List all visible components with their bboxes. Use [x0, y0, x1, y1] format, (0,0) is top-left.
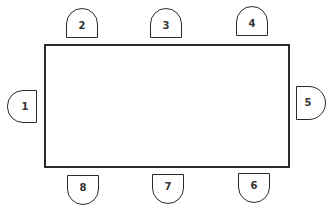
- chair-6-label: 6: [251, 181, 258, 191]
- chair-1-label: 1: [22, 102, 29, 112]
- chair-6: 6: [238, 173, 270, 203]
- chair-7: 7: [152, 174, 184, 204]
- chair-5-label: 5: [305, 98, 312, 108]
- chair-2-label: 2: [79, 21, 86, 31]
- chair-3: 3: [150, 8, 182, 38]
- conference-table: [44, 44, 290, 168]
- chair-7-label: 7: [165, 182, 172, 192]
- chair-1: 1: [7, 90, 37, 123]
- chair-8: 8: [67, 175, 99, 205]
- chair-2: 2: [66, 8, 98, 38]
- chair-8-label: 8: [80, 183, 87, 193]
- chair-4-label: 4: [249, 19, 256, 29]
- chair-5: 5: [296, 86, 326, 120]
- chair-4: 4: [236, 6, 268, 36]
- chair-3-label: 3: [163, 21, 170, 31]
